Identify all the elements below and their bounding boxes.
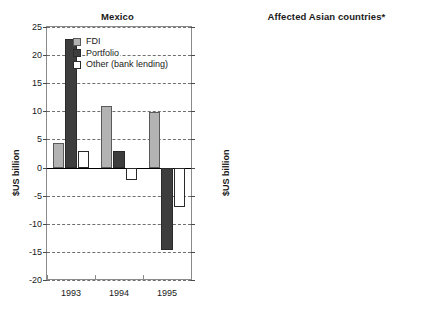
- bar-fdi-1993: [53, 143, 64, 168]
- y-axis-tick-mark: [43, 280, 47, 281]
- x-axis-tick-label: 1994: [109, 288, 129, 298]
- y-axis-tick-mark: [43, 224, 47, 225]
- legend-label-portfolio: Portfolio: [86, 48, 120, 60]
- y-axis-tick-label: -10: [29, 219, 42, 229]
- legend-item-portfolio: Portfolio: [73, 48, 169, 60]
- y-axis-tick-label: -20: [29, 275, 42, 285]
- y-axis-tick-label: 5: [37, 134, 42, 144]
- legend-swatch-portfolio-icon: [73, 49, 81, 57]
- y-axis-tick-mark: [191, 252, 195, 253]
- y-axis-tick-label: 25: [32, 22, 42, 32]
- x-axis-tick-mark: [95, 275, 96, 280]
- bar-portfolio-1995: [161, 168, 172, 250]
- y-axis-tick-label: 0: [37, 163, 42, 173]
- bar-portfolio-1994: [113, 151, 124, 168]
- y-axis-tick-label: 15: [32, 78, 42, 88]
- y-axis-tick-mark: [191, 168, 195, 169]
- y-axis-tick-mark: [43, 27, 47, 28]
- gridline: [47, 252, 191, 253]
- y-axis-tick-mark: [191, 280, 195, 281]
- y-axis-tick-mark: [43, 111, 47, 112]
- bar-other-1994: [126, 168, 137, 181]
- y-axis-tick-mark: [43, 196, 47, 197]
- y-axis-tick-mark: [43, 252, 47, 253]
- legend-item-other: Other (bank lending): [73, 59, 169, 71]
- y-axis-tick-mark: [43, 55, 47, 56]
- gridline: [47, 27, 191, 28]
- y-axis-tick-label: -15: [29, 247, 42, 257]
- chart-legend: FDI Portfolio Other (bank lending): [73, 36, 169, 71]
- legend-item-fdi: FDI: [73, 36, 169, 48]
- legend-label-fdi: FDI: [86, 36, 102, 48]
- y-axis-tick-mark: [191, 55, 195, 56]
- y-axis-tick-mark: [43, 168, 47, 169]
- y-axis-label-mexico: $US billion: [11, 149, 21, 196]
- x-axis-tick-label: 1995: [157, 288, 177, 298]
- legend-label-other: Other (bank lending): [86, 59, 169, 71]
- y-axis-label-asia: $US billion: [221, 149, 231, 196]
- y-axis-tick-label: 20: [32, 50, 42, 60]
- chart-title-mexico: Mexico: [0, 11, 213, 22]
- figure: Mexico $US billion 2520151050-5-10-15-20…: [0, 0, 426, 322]
- bar-fdi-1994: [101, 106, 112, 168]
- legend-swatch-fdi-icon: [73, 38, 81, 46]
- y-axis-tick-label: 10: [32, 106, 42, 116]
- chart-panel-asia: Affected Asian countries* $US billion 40…: [213, 0, 426, 322]
- y-axis-tick-label: -5: [34, 191, 42, 201]
- y-axis-tick-mark: [43, 83, 47, 84]
- y-axis-tick-mark: [191, 27, 195, 28]
- y-axis-tick-mark: [191, 196, 195, 197]
- x-axis-tick-mark: [191, 275, 192, 280]
- legend-swatch-other-icon: [73, 61, 81, 69]
- y-axis-tick-mark: [191, 83, 195, 84]
- x-axis-tick-mark: [47, 275, 48, 280]
- y-axis-tick-mark: [191, 111, 195, 112]
- y-axis-tick-mark: [191, 139, 195, 140]
- chart-title-asia: Affected Asian countries*: [213, 11, 426, 22]
- bar-fdi-1995: [149, 112, 160, 168]
- y-axis-tick-mark: [191, 224, 195, 225]
- bar-other-1993: [78, 151, 89, 168]
- x-axis-line: [47, 279, 191, 280]
- y-axis-tick-mark: [43, 139, 47, 140]
- chart-panel-mexico: Mexico $US billion 2520151050-5-10-15-20…: [0, 0, 213, 322]
- x-axis-tick-mark: [143, 275, 144, 280]
- bar-other-1995: [174, 168, 185, 207]
- x-axis-tick-label: 1993: [61, 288, 81, 298]
- gridline: [47, 280, 191, 281]
